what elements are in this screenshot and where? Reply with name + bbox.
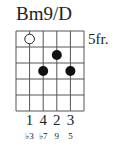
finger-number: 2 — [50, 112, 64, 129]
finger-number: 3 — [63, 112, 77, 129]
open-circle-marker — [25, 34, 35, 44]
finger-dot — [65, 66, 75, 76]
finger-number: 1 — [23, 112, 37, 129]
finger-dot — [52, 50, 62, 60]
interval-degree: 5 — [62, 131, 78, 141]
finger-number: 4 — [36, 112, 50, 129]
finger-dot — [38, 66, 48, 76]
